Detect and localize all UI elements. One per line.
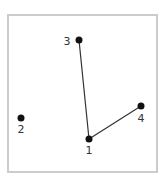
node-3: [76, 37, 83, 44]
node-label-1: 1: [86, 144, 93, 157]
node-4: [138, 103, 145, 110]
node-2: [18, 115, 25, 122]
node-label-4: 4: [138, 112, 145, 125]
edge-1-3: [79, 40, 89, 139]
node-1: [86, 136, 93, 143]
graph-canvas: 1234: [0, 0, 163, 179]
edge-1-4: [89, 106, 141, 139]
edges-layer: [79, 40, 141, 139]
node-label-2: 2: [18, 123, 25, 136]
nodes-layer: [18, 37, 145, 143]
node-label-3: 3: [64, 35, 71, 48]
labels-layer: 1234: [18, 35, 145, 157]
